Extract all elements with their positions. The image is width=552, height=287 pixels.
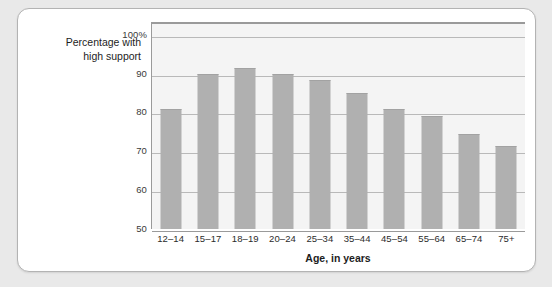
y-tick-label: 50 — [87, 224, 147, 234]
bar[interactable] — [421, 116, 442, 229]
bar[interactable] — [496, 146, 517, 229]
bar-slot — [413, 23, 450, 229]
x-tick-label: 18–19 — [227, 233, 264, 244]
x-tick-label: 35–44 — [339, 233, 376, 244]
gridline — [152, 231, 525, 232]
y-tick-label: 60 — [87, 185, 147, 195]
bar-slot — [264, 23, 301, 229]
x-tick-label: 25–34 — [301, 233, 338, 244]
x-axis-ticks: 12–1415–1718–1920–2425–3435–4445–5455–64… — [152, 233, 525, 249]
figure-card: Percentage with high support 50607080901… — [17, 8, 536, 272]
bar-slot — [376, 23, 413, 229]
y-tick-label: 70 — [87, 146, 147, 156]
bar-slot — [227, 23, 264, 229]
y-axis-ticks: 5060708090100% — [81, 22, 147, 229]
bar-slot — [189, 23, 226, 229]
x-tick-label: 45–54 — [376, 233, 413, 244]
bar[interactable] — [384, 109, 405, 229]
bar[interactable] — [235, 68, 256, 229]
bar[interactable] — [160, 109, 181, 229]
y-tick-label: 100% — [87, 30, 147, 40]
bar[interactable] — [197, 74, 218, 229]
bar[interactable] — [272, 74, 293, 229]
bar[interactable] — [347, 93, 368, 229]
y-tick-label: 90 — [87, 69, 147, 79]
x-tick-label: 55–64 — [413, 233, 450, 244]
x-tick-label: 12–14 — [152, 233, 189, 244]
x-tick-label: 20–24 — [264, 233, 301, 244]
x-axis-title: Age, in years — [151, 252, 525, 264]
bar-slot — [339, 23, 376, 229]
y-tick-label: 80 — [87, 107, 147, 117]
bar-chart: Percentage with high support 50607080901… — [18, 9, 537, 273]
bar[interactable] — [459, 134, 480, 229]
bars-layer — [152, 23, 525, 229]
bar[interactable] — [309, 80, 330, 229]
bar-slot — [488, 23, 525, 229]
bar-slot — [450, 23, 487, 229]
bar-slot — [301, 23, 338, 229]
x-tick-label: 65–74 — [450, 233, 487, 244]
x-tick-label: 75+ — [488, 233, 525, 244]
bar-slot — [152, 23, 189, 229]
x-tick-label: 15–17 — [189, 233, 226, 244]
